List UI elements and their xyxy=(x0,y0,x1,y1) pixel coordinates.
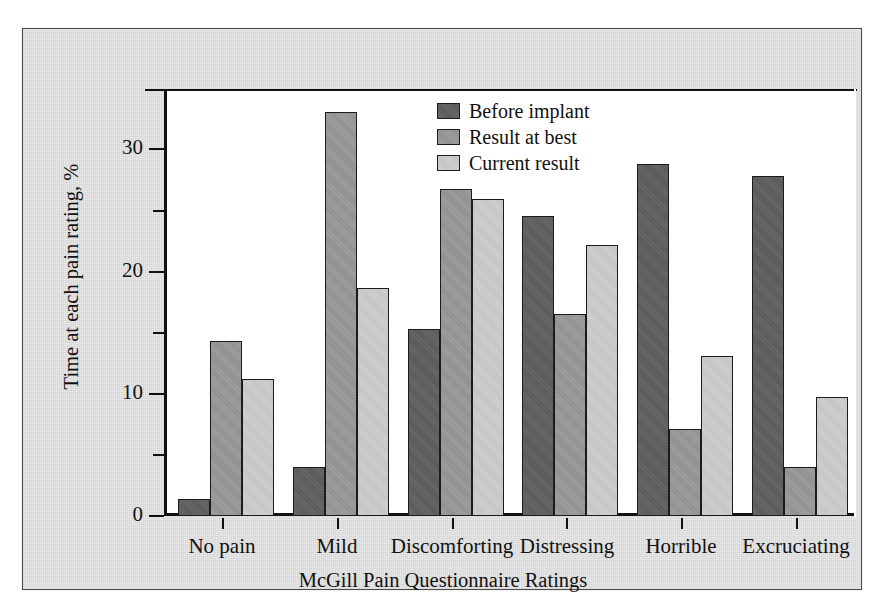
x-label-no-pain: No pain xyxy=(162,534,282,559)
bar-discomforting-result-at-best xyxy=(440,189,472,516)
y-tick-10 xyxy=(149,393,164,395)
bar-no-pain-result-at-best xyxy=(210,341,242,516)
x-label-excruciating: Excruciating xyxy=(730,534,862,559)
bar-distressing-result-at-best xyxy=(554,314,586,516)
x-tick-no-pain xyxy=(222,518,224,529)
legend-item-current-result: Current result xyxy=(437,151,590,174)
bar-horrible-result-at-best xyxy=(669,429,701,516)
figure-frame: 30 20 10 0 Time at each pain rating, % N… xyxy=(22,28,862,590)
bar-excruciating-before-implant xyxy=(752,176,784,516)
legend-swatch-icon-current-result xyxy=(437,155,460,171)
bar-excruciating-current-result xyxy=(816,397,848,516)
y-tick-label-10: 10 xyxy=(103,382,143,403)
y-tick-20 xyxy=(149,271,164,273)
bar-horrible-before-implant xyxy=(637,164,669,516)
legend-item-result-at-best: Result at best xyxy=(437,125,590,148)
chart-legend: Before implant Result at best Current re… xyxy=(437,99,590,177)
x-tick-distressing xyxy=(566,518,568,529)
bar-no-pain-current-result xyxy=(242,379,274,516)
x-label-horrible: Horrible xyxy=(621,534,741,559)
x-tick-mild xyxy=(337,518,339,529)
x-label-discomforting: Discomforting xyxy=(379,534,525,559)
x-tick-discomforting xyxy=(452,518,454,529)
y-tick-label-20: 20 xyxy=(103,260,143,281)
bar-horrible-current-result xyxy=(701,356,733,516)
bar-no-pain-before-implant xyxy=(178,499,210,516)
bar-discomforting-current-result xyxy=(472,199,504,516)
bar-discomforting-before-implant xyxy=(408,329,440,516)
x-tick-horrible xyxy=(681,518,683,529)
legend-swatch-icon-before-implant xyxy=(437,103,460,119)
y-tick-0 xyxy=(149,515,164,517)
y-tick-30 xyxy=(149,148,164,150)
bar-distressing-current-result xyxy=(586,245,618,516)
bar-mild-result-at-best xyxy=(325,112,357,516)
bar-mild-current-result xyxy=(357,288,389,516)
y-tick-15 xyxy=(153,332,164,334)
bar-excruciating-result-at-best xyxy=(784,467,816,516)
y-tick-label-30: 30 xyxy=(103,137,143,158)
x-axis-title: McGill Pain Questionnaire Ratings xyxy=(23,569,863,592)
legend-swatch-icon-result-at-best xyxy=(437,129,460,145)
y-tick-label-0: 0 xyxy=(103,504,143,525)
x-label-distressing: Distressing xyxy=(507,534,627,559)
x-tick-excruciating xyxy=(796,518,798,529)
bar-mild-before-implant xyxy=(293,467,325,516)
legend-label-before-implant: Before implant xyxy=(469,101,590,121)
y-axis-tick-labels: 30 20 10 0 xyxy=(83,29,143,591)
bar-distressing-before-implant xyxy=(522,216,554,516)
legend-label-result-at-best: Result at best xyxy=(469,127,577,147)
y-tick-5 xyxy=(153,454,164,456)
y-axis-title: Time at each pain rating, % xyxy=(60,127,83,427)
y-tick-25 xyxy=(153,210,164,212)
legend-label-current-result: Current result xyxy=(469,153,580,173)
legend-item-before-implant: Before implant xyxy=(437,99,590,122)
